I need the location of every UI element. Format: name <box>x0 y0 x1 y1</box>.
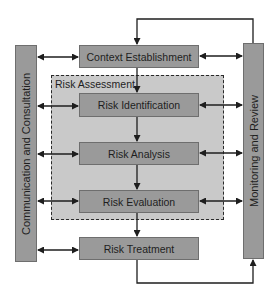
connector-lines <box>0 0 277 297</box>
risk-management-diagram: Communication and Consultation Monitorin… <box>0 0 277 297</box>
loop-treatment-to-monitoring <box>137 260 253 283</box>
loop-monitoring-to-context <box>137 19 253 44</box>
